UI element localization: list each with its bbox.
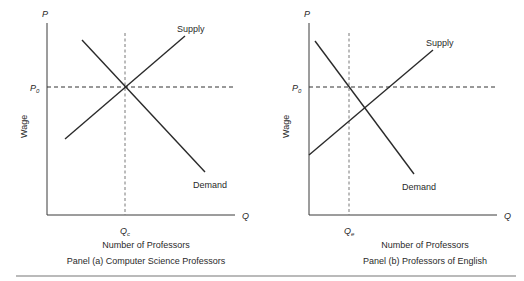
panel-b-y-axis-letter: P [304,9,310,19]
panel-b: P Q Wage P0 Qe Supply Demand Number of P… [281,9,511,266]
panel-b-supply-label: Supply [426,38,454,48]
panel-b-demand-label: Demand [402,182,436,192]
panel-b-supply-curve [309,50,433,155]
panel-a-supply-label: Supply [177,24,205,34]
panel-a-demand-curve [82,40,205,172]
panel-a-demand-label: Demand [193,180,227,190]
panel-b-x-axis-letter: Q [504,211,511,221]
panel-a-x-axis-title: Number of Professors [102,240,190,250]
diagram-canvas: P Q Wage P0 Qc Supply Demand Number of P… [0,0,524,281]
panel-a-y-axis-letter: P [42,9,48,19]
panel-a-y-axis-title: Wage [19,115,29,138]
panel-b-quantity-label: Qe [344,226,355,237]
panel-a: P Q Wage P0 Qc Supply Demand Number of P… [19,9,249,266]
panel-b-y-axis-title: Wage [281,115,291,138]
panel-b-caption: Panel (b) Professors of English [363,256,487,266]
panel-a-caption: Panel (a) Computer Science Professors [67,256,226,266]
panel-b-demand-curve [315,41,414,174]
panel-a-quantity-label: Qc [120,226,130,237]
panel-a-price-label: P0 [30,83,40,94]
panel-b-x-axis-title: Number of Professors [381,240,469,250]
panel-b-price-label: P0 [292,83,302,94]
panel-a-x-axis-letter: Q [242,211,249,221]
